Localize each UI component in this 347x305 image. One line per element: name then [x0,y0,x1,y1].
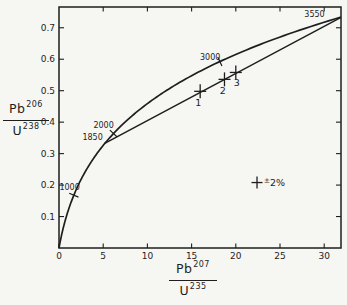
sample-label-3: 3 [234,77,240,88]
y-axis-label: Pb206 U238 [3,100,49,141]
y-tick-label: 0.7 [41,23,55,33]
concordia-diagram: 0510152025300.10.20.30.40.50.60.71000185… [0,0,347,305]
x-tick-label: 25 [274,251,285,261]
x-tick-label: 20 [230,251,242,261]
concordia-age-label: 3000 [200,53,220,62]
sample-label-1: 1 [195,97,201,108]
x-tick-label: 0 [56,251,62,261]
y-tick-label: 0.3 [41,149,55,159]
error-legend-text: ±2% [264,176,285,188]
sample-label-2: 2 [220,85,226,96]
x-axis-label: Pb207 U235 [169,260,217,301]
x-axis-label-numerator: Pb207 [169,260,217,281]
concordia-age-label: 2000 [93,121,113,130]
y-tick-label: 0.6 [41,54,56,64]
concordia-age-label: 1000 [59,183,79,192]
y-axis-label-numerator: Pb206 [3,100,49,121]
discordia-line [105,17,341,143]
x-tick-label: 10 [142,251,154,261]
concordia-age-label: 1850 [82,133,102,142]
x-tick-label: 5 [100,251,106,261]
y-tick-label: 0.1 [41,212,55,222]
y-tick-label: 0.2 [41,180,55,190]
concordia-age-label: 3550 [304,10,324,19]
y-tick-label: 0.5 [41,86,55,96]
y-axis-label-denominator: U238 [3,121,49,141]
x-axis-label-denominator: U235 [169,281,217,301]
x-tick-label: 30 [318,251,330,261]
